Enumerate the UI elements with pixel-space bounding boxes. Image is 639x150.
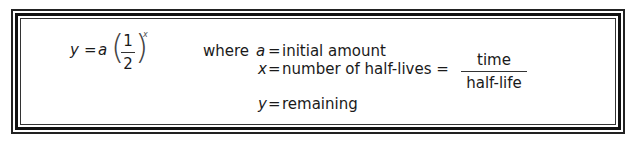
def-y-text: remaining (282, 97, 358, 112)
def-x-var: x (258, 62, 267, 77)
def-a-eq: = (268, 44, 281, 59)
formula-coefficient: a (98, 43, 107, 58)
formula-fraction: 1 2 (121, 32, 135, 73)
where-label: where (203, 44, 249, 59)
def-a-text: initial amount (282, 44, 386, 59)
def-x-text: number of half-lives = (282, 62, 449, 77)
half-lives-fraction: time half-life (461, 51, 527, 92)
def-x-eq: = (268, 62, 281, 77)
formula-exponent: x (143, 30, 148, 39)
fraction-bar (121, 52, 135, 53)
def-y-var: y (258, 97, 267, 112)
formula-lhs: y (70, 43, 79, 58)
def-a-var: a (256, 44, 265, 59)
half-lives-bar (461, 71, 527, 72)
half-lives-numerator: time (461, 51, 527, 69)
fraction-denominator: 2 (121, 55, 135, 73)
half-lives-denominator: half-life (461, 74, 527, 92)
fraction-numerator: 1 (121, 32, 135, 50)
def-y-eq: = (268, 97, 281, 112)
formula-equals: = (84, 43, 97, 58)
